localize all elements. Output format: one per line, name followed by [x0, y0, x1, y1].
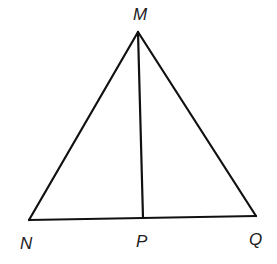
segment-mq [138, 32, 256, 216]
label-q: Q [249, 230, 262, 249]
label-n: N [20, 234, 33, 253]
segment-mp [138, 32, 143, 218]
label-m: M [133, 5, 148, 24]
triangle-diagram: M N P Q [0, 0, 277, 264]
label-p: P [136, 232, 148, 251]
segment-mn [29, 32, 138, 220]
